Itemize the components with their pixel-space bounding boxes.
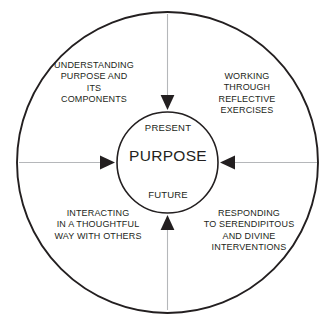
arrow-down-icon (161, 95, 175, 110)
diagram-canvas: UNDERSTANDING PURPOSE AND ITS COMPONENTS… (0, 0, 336, 322)
arrow-up-icon (161, 215, 175, 230)
center-label-purpose: PURPOSE (113, 147, 223, 165)
center-label-present: PRESENT (118, 122, 218, 133)
quadrant-label-bottom-left: INTERACTING IN A THOUGHTFUL WAY WITH OTH… (40, 208, 156, 242)
center-label-future: FUTURE (118, 189, 218, 200)
quadrant-label-bottom-right: RESPONDING TO SERENDIPITOUS AND DIVINE I… (188, 208, 310, 254)
quadrant-label-top-right: WORKING THROUGH REFLECTIVE EXERCISES (194, 71, 300, 117)
quadrant-label-top-left: UNDERSTANDING PURPOSE AND ITS COMPONENTS (38, 60, 150, 106)
